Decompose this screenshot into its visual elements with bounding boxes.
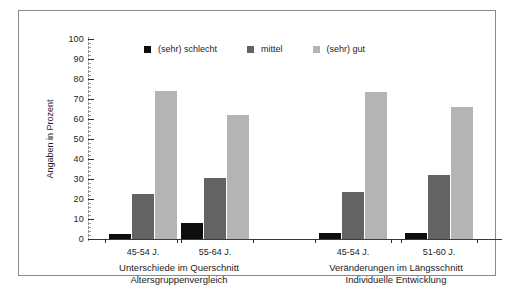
panel-caption-line2: Altersgruppenvergleich [119,274,239,286]
legend-item-schlecht: (sehr) schlecht [144,44,217,54]
bar [132,194,154,239]
bar [342,192,364,239]
legend-item-mittel: mittel [247,44,283,54]
plot-area [89,39,501,239]
bar [109,234,131,239]
x-axis-tick [477,239,478,243]
y-axis-title: Angaben in Prozent [45,99,55,178]
legend-swatch-icon [144,46,151,53]
x-axis-tick [105,239,106,243]
legend-swatch-icon [247,46,254,53]
y-tick-label: 70 [74,94,84,104]
y-tick-major [88,239,94,240]
bar [365,92,387,239]
legend-label: mittel [261,44,283,54]
y-tick-label: 100 [68,34,84,44]
y-tick-label: 50 [74,134,84,144]
panel-caption-line1: Veränderungen im Längsschnitt [329,262,463,274]
y-tick-label: 40 [74,154,84,164]
y-tick-label: 10 [74,214,84,224]
bar [204,178,226,239]
y-tick-label: 80 [74,74,84,84]
chart-figure: Angaben in Prozent 010203040506070809010… [0,0,513,294]
x-axis-tick [177,239,178,243]
y-tick-label: 30 [74,174,84,184]
bar [451,107,473,239]
y-tick-label: 60 [74,114,84,124]
panel-caption-line1: Unterschiede im Querschnitt [119,262,239,274]
chart-legend: (sehr) schlecht mittel (sehr) gut [144,44,365,54]
bar [319,233,341,239]
x-tick-label: 51-60 J. [423,247,456,257]
bar [405,233,427,239]
bar [428,175,450,239]
x-tick-label: 45-54 J. [337,247,370,257]
legend-label: (sehr) schlecht [158,44,217,54]
y-tick-label: 0 [79,234,84,244]
x-axis-tick [315,239,316,243]
bar [155,91,177,239]
x-axis-tick [401,239,402,243]
y-tick-label: 90 [74,54,84,64]
x-axis-tick [391,239,392,243]
y-tick-label: 20 [74,194,84,204]
legend-item-gut: (sehr) gut [313,44,366,54]
x-axis-tick [181,239,182,243]
bar [181,223,203,239]
legend-swatch-icon [313,46,320,53]
x-tick-label: 55-64 J. [199,247,232,257]
x-axis-line [88,239,502,240]
bar [227,115,249,239]
x-axis-tick [253,239,254,243]
chart-frame: Angaben in Prozent 010203040506070809010… [18,10,496,276]
x-tick-label: 45-54 J. [127,247,160,257]
panel-caption-line2: Individuelle Entwicklung [329,274,463,286]
panel-caption: Veränderungen im LängsschnittIndividuell… [329,262,463,286]
panel-caption: Unterschiede im QuerschnittAltersgruppen… [119,262,239,286]
legend-label: (sehr) gut [327,44,366,54]
